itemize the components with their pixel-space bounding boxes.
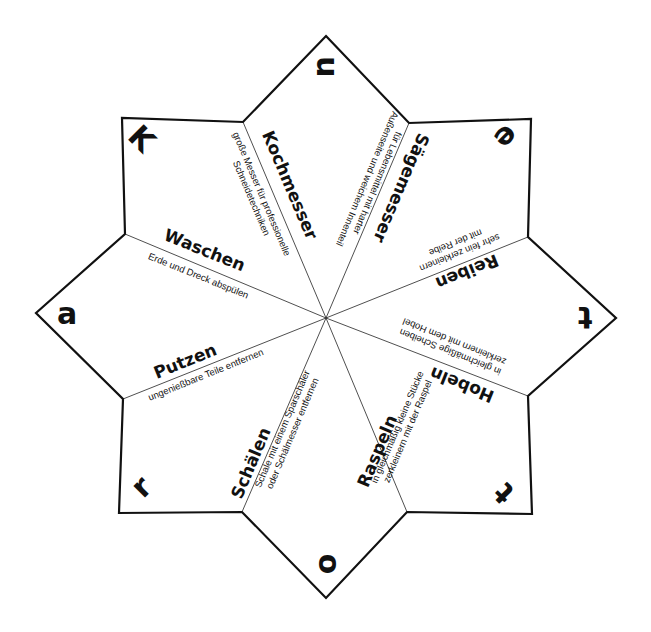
folding-star-worksheet: u e t t o r a K Kochmesser große Messer … [0,0,651,632]
letter-bottom: o [311,554,341,575]
star-outline [0,0,651,632]
letter-top: u [312,56,342,77]
letter-right: t [578,302,592,332]
letter-left: a [57,299,77,329]
